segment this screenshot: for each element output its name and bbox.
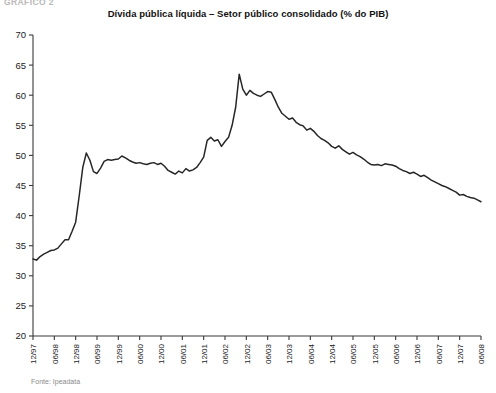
exhibit-label: GRÁFICO 2	[4, 0, 54, 7]
y-tick-label: 30	[15, 270, 26, 281]
x-tick-label: 12/03	[285, 343, 294, 364]
y-tick-label: 65	[15, 60, 26, 71]
line-chart-plot: 2025303540455055606570 12/9706/9812/9806…	[0, 0, 496, 370]
x-tick-label: 06/02	[221, 343, 230, 364]
y-tick-label: 60	[15, 90, 26, 101]
x-tick-label: 06/05	[349, 343, 358, 364]
y-tick-label: 20	[15, 330, 26, 341]
x-tick-label: 12/04	[328, 343, 337, 364]
y-tick-label: 50	[15, 150, 26, 161]
x-tick-label: 12/01	[200, 343, 209, 364]
x-tick-label: 06/07	[435, 343, 444, 364]
x-tick-label: 06/06	[392, 343, 401, 364]
y-axis-ticks: 2025303540455055606570	[15, 29, 33, 341]
x-tick-label: 12/06	[413, 343, 422, 364]
x-tick-label: 12/00	[157, 343, 166, 364]
source-note: Fonte: Ipeadata	[31, 378, 80, 385]
chart-figure: GRÁFICO 2 Dívida pública líquida – Setor…	[0, 0, 496, 393]
x-tick-label: 12/07	[456, 343, 465, 364]
x-tick-label: 12/99	[115, 343, 124, 364]
y-tick-label: 55	[15, 120, 26, 131]
y-tick-label: 45	[15, 180, 26, 191]
x-tick-label: 12/05	[371, 343, 380, 364]
x-tick-label: 12/98	[72, 343, 81, 364]
data-series-line	[33, 74, 481, 260]
y-tick-label: 40	[15, 210, 26, 221]
x-tick-label: 06/98	[51, 343, 60, 364]
x-tick-label: 12/97	[29, 343, 38, 364]
x-tick-label: 06/99	[93, 343, 102, 364]
y-tick-label: 25	[15, 300, 26, 311]
x-tick-label: 06/04	[307, 343, 316, 364]
y-tick-label: 35	[15, 240, 26, 251]
x-tick-label: 12/02	[243, 343, 252, 364]
x-axis-ticks: 12/9706/9812/9806/9912/9906/0012/0006/01…	[29, 336, 486, 364]
x-tick-label: 06/01	[179, 343, 188, 364]
chart-title: Dívida pública líquida – Setor público c…	[0, 8, 496, 19]
x-tick-label: 06/03	[264, 343, 273, 364]
x-tick-label: 06/00	[136, 343, 145, 364]
y-tick-label: 70	[15, 29, 26, 40]
x-tick-label: 06/08	[477, 343, 486, 364]
